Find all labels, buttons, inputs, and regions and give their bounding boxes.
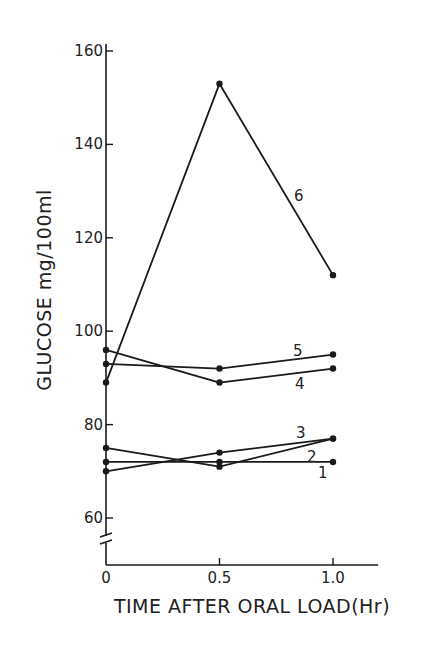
series-lines [103, 80, 336, 474]
data-point [216, 449, 222, 455]
data-point [216, 379, 222, 385]
data-point [330, 459, 336, 465]
series-labels: 123456 [293, 187, 328, 482]
series-6 [103, 80, 336, 385]
data-point [103, 361, 109, 367]
data-point [216, 463, 222, 469]
data-point [103, 445, 109, 451]
y-axis-title: GLUCOSE mg/100ml [33, 189, 55, 391]
data-point [330, 365, 336, 371]
y-tick-label: 80 [84, 416, 103, 434]
data-point [216, 365, 222, 371]
data-point [103, 347, 109, 353]
y-tick-label: 160 [74, 42, 103, 60]
series-label-3: 3 [296, 424, 306, 442]
x-tick-label: 0.5 [208, 569, 232, 587]
series-label-2: 2 [307, 448, 317, 466]
y-tick-label: 60 [84, 509, 103, 527]
series-label-5: 5 [293, 342, 303, 360]
y-tick-label: 120 [74, 229, 103, 247]
x-axis-title: TIME AFTER ORAL LOAD(Hr) [113, 595, 390, 617]
y-tick-label: 140 [74, 135, 103, 153]
data-point [330, 435, 336, 441]
data-point [216, 80, 222, 86]
y-tick-label: 100 [74, 322, 103, 340]
x-tick-label: 0 [101, 569, 111, 587]
axes: 608010012014016000.51.0 [74, 42, 378, 587]
data-point [330, 351, 336, 357]
series-line [106, 84, 333, 383]
data-point [103, 379, 109, 385]
series-label-6: 6 [294, 187, 304, 205]
glucose-line-chart: 608010012014016000.51.0 123456 TIME AFTE… [0, 0, 431, 647]
data-point [330, 272, 336, 278]
x-tick-label: 1.0 [321, 569, 345, 587]
series-label-4: 4 [295, 375, 305, 393]
data-point [103, 468, 109, 474]
series-label-1: 1 [318, 464, 328, 482]
data-point [103, 459, 109, 465]
